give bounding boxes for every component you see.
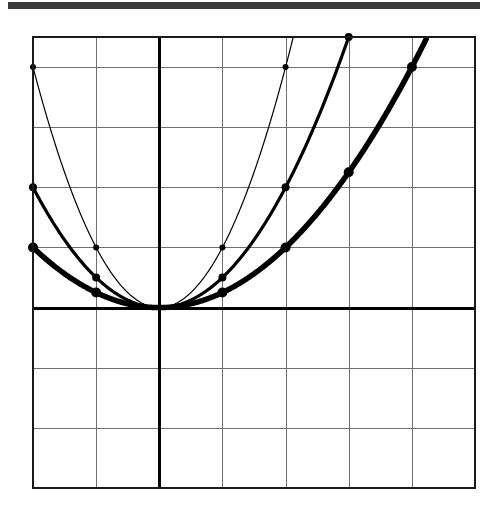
- page-root: [0, 0, 492, 521]
- data-point-marker: [407, 62, 417, 72]
- data-point-marker: [283, 64, 289, 70]
- data-point-marker: [217, 288, 227, 298]
- data-point-marker: [218, 274, 226, 282]
- chart-canvas: [0, 0, 492, 521]
- plot-background: [33, 37, 475, 488]
- data-point-marker: [93, 244, 99, 250]
- data-point-marker: [92, 274, 100, 282]
- data-point-marker: [282, 183, 290, 191]
- data-point-marker: [344, 167, 354, 177]
- data-point-marker: [281, 242, 291, 252]
- parabola-plot: [0, 0, 492, 521]
- data-point-marker: [91, 288, 101, 298]
- data-point-marker: [219, 244, 225, 250]
